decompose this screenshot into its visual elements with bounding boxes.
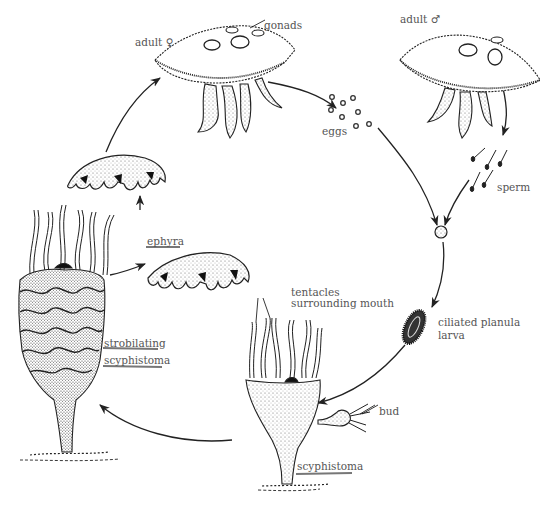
arrow-zygote-to-planula: [432, 242, 444, 307]
planula-larva: [398, 307, 430, 347]
strobilating-scyphistoma: [19, 205, 120, 461]
label-sperm: sperm: [497, 181, 530, 193]
ephyra: [148, 253, 249, 290]
arrow-male-to-sperm: [503, 88, 506, 135]
adult-female-medusa: [155, 26, 295, 138]
label-ephyra: ephyra: [147, 235, 184, 247]
label-gonads: gonads: [264, 19, 302, 31]
zygote: [435, 226, 447, 238]
label-planula-line2: larva: [438, 329, 465, 341]
label-planula-line1: ciliated planula: [438, 316, 520, 328]
pointer-lines: [250, 20, 378, 414]
label-strobilating-line1: strobilating: [104, 337, 166, 349]
label-adult-male: adult ♂: [400, 13, 440, 25]
arrow-strobilating-to-ephyra: [110, 264, 145, 275]
label-scyphistoma: scyphistoma: [297, 460, 363, 472]
label-tentacles-line2: surrounding mouth: [291, 297, 394, 309]
label-strobilating-line2: scyphistoma: [104, 354, 170, 366]
life-cycle-diagram: adult ♀ gonads adult ♂ eggs sperm ciliat…: [0, 0, 555, 513]
label-adult-female: adult ♀: [135, 36, 173, 48]
eggs-cluster: [329, 95, 372, 129]
diagram-drawing: [0, 0, 555, 513]
arrow-eggs-to-zygote: [378, 128, 437, 225]
arrow-planula-to-scyphistoma: [318, 345, 405, 403]
adult-male-medusa: [400, 35, 540, 138]
arrow-ephyra-to-adult: [106, 78, 160, 152]
arrow-sperm-to-zygote: [445, 180, 469, 225]
label-eggs: eggs: [322, 125, 347, 137]
young-medusa: [68, 155, 166, 189]
gonads-pointer: [250, 20, 265, 28]
label-bud: bud: [379, 405, 399, 417]
arrow-scyphistoma-to-strobilating: [100, 405, 232, 441]
